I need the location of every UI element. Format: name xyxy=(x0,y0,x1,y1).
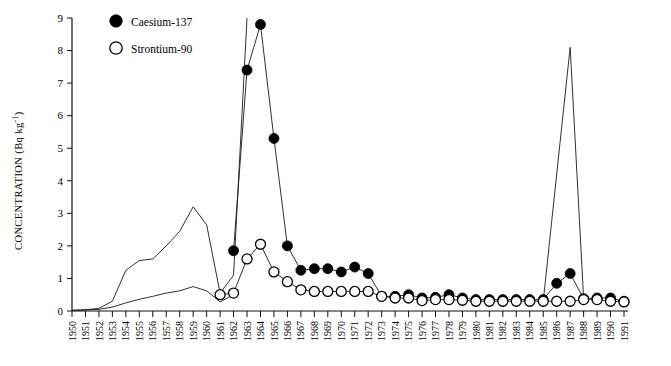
data-point-caesium-137 xyxy=(282,241,292,251)
x-tick-label: 1980 xyxy=(471,321,482,341)
x-tick-label: 1983 xyxy=(511,321,522,341)
x-tick-label: 1955 xyxy=(134,321,145,341)
data-point-strontium-90 xyxy=(363,286,373,296)
data-point-caesium-137 xyxy=(363,269,373,279)
data-point-strontium-90 xyxy=(296,285,306,295)
data-point-strontium-90 xyxy=(229,288,239,298)
y-axis-title-superscript: -1 xyxy=(11,115,20,122)
x-tick-label: 1968 xyxy=(309,321,320,341)
x-tick-label: 1973 xyxy=(376,321,387,341)
data-point-strontium-90 xyxy=(377,291,387,301)
data-point-strontium-90 xyxy=(444,295,454,305)
chart-legend: Caesium-137 Strontium-90 xyxy=(110,15,193,55)
x-tick-label: 1953 xyxy=(107,321,118,341)
data-point-strontium-90 xyxy=(431,295,441,305)
data-point-strontium-90 xyxy=(255,239,265,249)
data-point-caesium-137 xyxy=(296,265,306,275)
x-tick-label: 1985 xyxy=(538,321,549,341)
data-point-strontium-90 xyxy=(269,267,279,277)
chart-plot-area: 0123456789195019511952195319541955195619… xyxy=(0,0,671,366)
data-point-strontium-90 xyxy=(417,296,427,306)
x-tick-label: 1970 xyxy=(336,321,347,341)
data-point-strontium-90 xyxy=(471,296,481,306)
data-point-strontium-90 xyxy=(498,296,508,306)
x-tick-label: 1981 xyxy=(484,321,495,341)
data-point-strontium-90 xyxy=(350,286,360,296)
svg-text:CONCENTRATION (Bq kg-1): CONCENTRATION (Bq kg-1) xyxy=(11,111,25,250)
x-tick-label: 1963 xyxy=(242,321,253,341)
y-tick-label: 1 xyxy=(58,272,64,284)
x-tick-label: 1967 xyxy=(295,321,306,341)
y-tick-label: 5 xyxy=(58,142,64,154)
legend-label-strontium-90: Strontium-90 xyxy=(131,43,193,55)
x-tick-label: 1978 xyxy=(444,321,455,341)
x-tick-label: 1974 xyxy=(390,321,401,341)
data-point-caesium-137 xyxy=(350,262,360,272)
x-tick-label: 1989 xyxy=(592,321,603,341)
x-tick-label: 1972 xyxy=(363,321,374,341)
x-tick-label: 1982 xyxy=(497,321,508,341)
y-axis-title-text: CONCENTRATION (Bq kg xyxy=(13,122,25,250)
data-point-caesium-137 xyxy=(323,264,333,274)
data-point-strontium-90 xyxy=(215,290,225,300)
y-axis-title: CONCENTRATION (Bq kg-1) xyxy=(11,111,25,250)
x-tick-label: 1979 xyxy=(457,321,468,341)
data-point-caesium-137 xyxy=(242,65,252,75)
data-point-strontium-90 xyxy=(592,295,602,305)
x-tick-label: 1965 xyxy=(269,321,280,341)
x-tick-label: 1977 xyxy=(430,321,441,341)
data-point-caesium-137 xyxy=(269,133,279,143)
x-tick-label: 1984 xyxy=(524,321,535,341)
y-tick-label: 9 xyxy=(58,12,64,24)
data-point-strontium-90 xyxy=(552,296,562,306)
y-tick-label: 0 xyxy=(58,305,64,317)
x-tick-label: 1962 xyxy=(228,321,239,341)
data-point-strontium-90 xyxy=(565,296,575,306)
data-point-caesium-137 xyxy=(309,264,319,274)
x-tick-label: 1958 xyxy=(174,321,185,341)
data-point-caesium-137 xyxy=(565,269,575,279)
x-tick-label: 1954 xyxy=(120,321,131,341)
data-point-strontium-90 xyxy=(336,286,346,296)
x-tick-label: 1990 xyxy=(605,321,616,341)
x-tick-label: 1969 xyxy=(322,321,333,341)
x-tick-label: 1966 xyxy=(282,321,293,341)
x-tick-label: 1988 xyxy=(578,321,589,341)
data-point-strontium-90 xyxy=(242,254,252,264)
data-point-strontium-90 xyxy=(282,277,292,287)
data-point-strontium-90 xyxy=(579,295,589,305)
series-lines-layer xyxy=(220,25,624,302)
x-tick-label: 1986 xyxy=(551,321,562,341)
data-point-strontium-90 xyxy=(525,296,535,306)
y-tick-label: 6 xyxy=(58,109,64,121)
legend-label-caesium-137: Caesium-137 xyxy=(131,16,193,28)
x-tick-label: 1957 xyxy=(161,321,172,341)
series-path-caesium-137 xyxy=(234,25,624,302)
data-point-caesium-137 xyxy=(552,278,562,288)
y-tick-label: 4 xyxy=(58,175,64,187)
series-path-chernobyl-spike xyxy=(543,47,583,301)
data-point-caesium-137 xyxy=(229,246,239,256)
chart-figure: 0123456789195019511952195319541955195619… xyxy=(0,0,671,366)
legend-marker-caesium-137-icon xyxy=(110,15,122,27)
data-point-strontium-90 xyxy=(457,295,467,305)
data-point-strontium-90 xyxy=(538,296,548,306)
legend-marker-strontium-90-icon xyxy=(110,42,122,54)
x-tick-label: 1987 xyxy=(565,321,576,341)
y-axis-title-close: ) xyxy=(13,111,25,115)
data-point-caesium-137 xyxy=(336,267,346,277)
x-tick-label: 1956 xyxy=(147,321,158,341)
x-tick-label: 1950 xyxy=(67,321,78,341)
x-tick-label: 1991 xyxy=(619,321,630,341)
x-tick-label: 1964 xyxy=(255,321,266,341)
x-tick-label: 1961 xyxy=(215,321,226,341)
data-point-strontium-90 xyxy=(606,296,616,306)
axes-layer xyxy=(67,18,628,317)
x-tick-label: 1975 xyxy=(403,321,414,341)
y-tick-label: 8 xyxy=(58,44,64,56)
series-path-lower-unmarked-curve xyxy=(72,287,234,311)
x-tick-label: 1960 xyxy=(201,321,212,341)
y-tick-label: 3 xyxy=(58,207,64,219)
x-tick-label: 1971 xyxy=(349,321,360,341)
x-tick-label: 1951 xyxy=(80,321,91,341)
